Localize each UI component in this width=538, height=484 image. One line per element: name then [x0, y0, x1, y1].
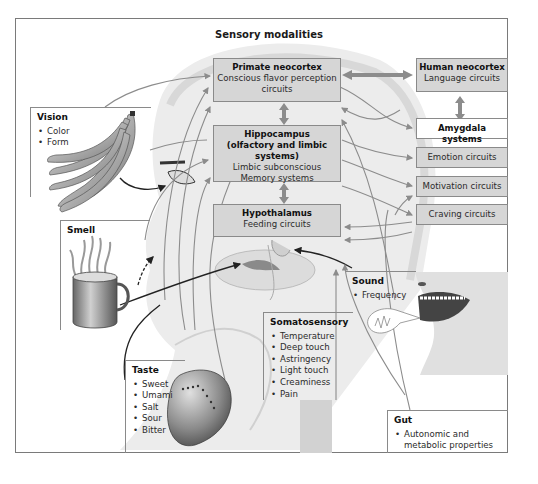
- vision-panel: Vision Color Form: [30, 107, 151, 197]
- somatosensory-item: Pain: [270, 389, 353, 401]
- smell-heading: Smell: [67, 225, 150, 237]
- somatosensory-item: Temperature: [270, 331, 353, 343]
- taste-item: Sour: [132, 413, 185, 425]
- hypothalamus-heading: Hypothalamus: [214, 208, 340, 219]
- somatosensory-item: Astringency: [270, 354, 353, 366]
- amygdala-heading: Amygdala systems: [417, 123, 507, 145]
- primate-neocortex-line2: circuits: [214, 84, 340, 95]
- somatosensory-heading: Somatosensory: [270, 317, 353, 329]
- vision-heading: Vision: [37, 112, 151, 124]
- hippocampus-line1: Limbic subconscious: [214, 162, 340, 173]
- emotion-label: Emotion circuits: [417, 152, 507, 163]
- sound-panel: Sound Frequency: [346, 271, 416, 311]
- smell-panel: Smell: [60, 220, 150, 330]
- motivation-circuits-box: Motivation circuits: [416, 176, 508, 197]
- amygdala-systems-box: Amygdala systems: [416, 118, 508, 139]
- emotion-circuits-box: Emotion circuits: [416, 147, 508, 168]
- taste-item: Bitter: [132, 425, 185, 437]
- human-neocortex-line: Language circuits: [417, 73, 507, 84]
- sound-heading: Sound: [352, 276, 416, 288]
- sound-item: Frequency: [352, 290, 416, 302]
- somatosensory-panel: Somatosensory Temperature Deep touch Ast…: [263, 312, 353, 400]
- diagram-title: Sensory modalities: [0, 29, 538, 40]
- gut-heading: Gut: [394, 415, 508, 427]
- primate-neocortex-heading: Primate neocortex: [214, 62, 340, 73]
- somatosensory-item: Light touch: [270, 365, 353, 377]
- taste-panel: Taste Sweet Umami Salt Sour Bitter: [125, 360, 185, 453]
- hippocampus-box: Hippocampus (olfactory and limbic system…: [213, 125, 341, 182]
- vision-item: Form: [37, 137, 151, 149]
- hippocampus-line2: Memory systems: [214, 173, 340, 184]
- primate-neocortex-box: Primate neocortex Conscious flavor perce…: [213, 58, 341, 102]
- taste-item: Umami: [132, 390, 185, 402]
- primate-neocortex-line1: Conscious flavor perception: [214, 73, 340, 84]
- motivation-label: Motivation circuits: [417, 181, 507, 192]
- human-neocortex-box: Human neocortex Language circuits: [416, 58, 508, 92]
- taste-item: Sweet: [132, 379, 185, 391]
- human-neocortex-heading: Human neocortex: [417, 62, 507, 73]
- taste-item: Salt: [132, 402, 185, 414]
- vision-item: Color: [37, 126, 151, 138]
- gut-panel: Gut Autonomic and metabolic properties: [387, 410, 508, 453]
- hypothalamus-box: Hypothalamus Feeding circuits: [213, 204, 341, 237]
- gut-item: Autonomic and metabolic properties: [394, 429, 508, 452]
- hypothalamus-line1: Feeding circuits: [214, 219, 340, 230]
- taste-heading: Taste: [132, 365, 185, 377]
- hippocampus-heading: Hippocampus: [214, 129, 340, 140]
- craving-circuits-box: Craving circuits: [416, 204, 508, 225]
- somatosensory-item: Creaminess: [270, 377, 353, 389]
- craving-label: Craving circuits: [417, 209, 507, 220]
- somatosensory-item: Deep touch: [270, 342, 353, 354]
- hippocampus-subheading: (olfactory and limbic systems): [214, 140, 340, 162]
